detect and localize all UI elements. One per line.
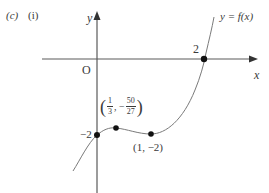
y-intercept-label: −2	[80, 129, 92, 140]
x-fraction: 13	[107, 97, 113, 116]
y-fraction: 5027	[126, 97, 136, 116]
x-numerator: 1	[107, 97, 113, 107]
root-point	[201, 56, 207, 62]
local-max-point	[113, 125, 119, 131]
y-axis-arrow-icon	[94, 11, 101, 20]
part-label: (c)	[6, 10, 18, 21]
root-label: 2	[193, 43, 199, 55]
y-numerator: 50	[126, 97, 136, 107]
curve-label: y = f(x)	[220, 11, 253, 22]
graph-figure: (c) (i) y O x y = f(x) 2 −2 (13, −5027) …	[0, 0, 269, 193]
y-denominator: 27	[126, 107, 136, 116]
part-label-text: (c)	[6, 9, 18, 21]
local-min-label: (1, −2)	[133, 142, 163, 153]
close-paren: )	[137, 97, 143, 117]
local-min-point	[148, 131, 154, 137]
y-intercept-point	[94, 132, 100, 138]
open-paren: (	[100, 97, 106, 117]
x-denominator: 3	[107, 107, 113, 116]
subpart-label: (i)	[28, 10, 38, 21]
x-axis-arrow-icon	[249, 56, 258, 63]
separator: , −	[114, 101, 125, 112]
x-axis-label: x	[254, 69, 259, 81]
y-axis-label: y	[87, 12, 92, 24]
origin-label: O	[82, 64, 91, 76]
local-max-label: (13, −5027)	[100, 97, 143, 116]
